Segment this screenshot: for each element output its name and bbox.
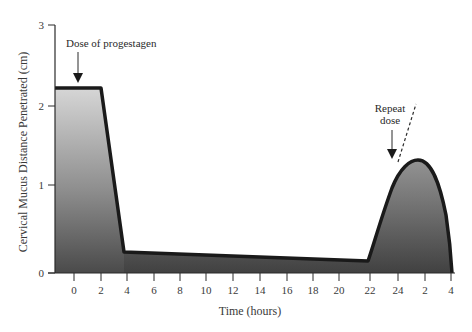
repeat-dose-label-line1: Repeat: [375, 102, 406, 114]
y-ticks: [48, 25, 55, 273]
y-tick-2: 2: [39, 100, 45, 112]
first-dose-arrow-icon: [73, 73, 83, 83]
repeat-dose-arrow-icon: [387, 149, 397, 159]
svg-text:12: 12: [228, 284, 239, 296]
svg-text:22: 22: [365, 284, 376, 296]
repeat-dose-label-line2: dose: [380, 114, 400, 126]
svg-text:2: 2: [98, 284, 104, 296]
svg-text:18: 18: [308, 284, 320, 296]
svg-text:14: 14: [255, 284, 267, 296]
x-ticks: [74, 273, 451, 281]
svg-text:10: 10: [201, 284, 213, 296]
svg-text:16: 16: [282, 284, 294, 296]
svg-text:0: 0: [71, 284, 77, 296]
y-tick-0: 0: [39, 267, 45, 279]
cervical-mucus-chart: 0 1 2 3 0 2 4 6 8 10 12 14 16 18 20 22 2…: [0, 0, 472, 332]
x-tick-labels: 0 2 4 6 8 10 12 14 16 18 20 22 24 2 4: [71, 284, 454, 296]
svg-text:4: 4: [124, 284, 130, 296]
svg-text:6: 6: [151, 284, 157, 296]
x-axis-title: Time (hours): [219, 304, 282, 318]
svg-text:8: 8: [177, 284, 183, 296]
first-dose-label: Dose of progestagen: [66, 37, 157, 49]
svg-text:2: 2: [422, 284, 428, 296]
svg-text:4: 4: [448, 284, 454, 296]
y-tick-1: 1: [39, 179, 45, 191]
y-tick-3: 3: [39, 19, 45, 31]
second-peak-fill: [124, 160, 452, 273]
svg-text:24: 24: [393, 284, 405, 296]
y-axis-title: Cervical Mucus Distance Penetrated (cm): [16, 52, 30, 253]
svg-text:20: 20: [334, 284, 346, 296]
